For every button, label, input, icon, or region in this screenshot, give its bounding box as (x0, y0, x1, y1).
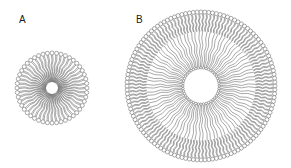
micelle-diagram (15, 51, 89, 125)
lipid-diagram (0, 0, 291, 168)
vesicle-diagram (125, 10, 277, 162)
